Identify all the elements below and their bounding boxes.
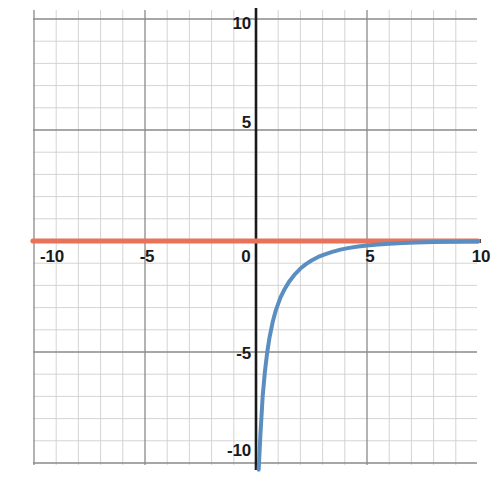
y-tick-label-5: 5 [242, 114, 251, 131]
exponential-curve [259, 241, 478, 469]
y-tick-label-neg5: -5 [236, 345, 251, 362]
x-tick-label-zero: 0 [241, 248, 250, 265]
y-tick-label-neg10: -10 [227, 442, 251, 459]
y-tick-label-10: 10 [232, 15, 251, 32]
x-tick-label-5: 5 [365, 248, 374, 265]
x-tick-label-neg5: -5 [140, 248, 155, 265]
coordinate-plane-svg [0, 0, 503, 489]
graph-canvas: -10 -5 0 5 10 10 5 -5 -10 [0, 0, 503, 489]
x-tick-label-10: 10 [472, 248, 491, 265]
x-tick-label-neg10: -10 [40, 248, 64, 265]
